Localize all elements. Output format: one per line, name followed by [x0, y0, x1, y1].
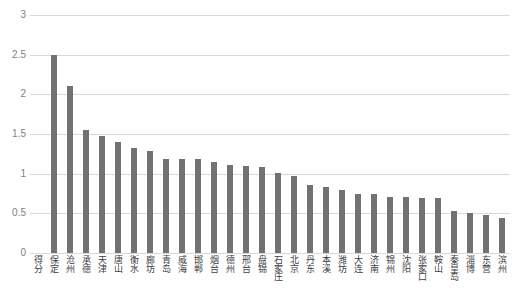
x-axis-tick-label: 张家口: [417, 255, 426, 281]
x-axis-tick: 丹东: [302, 253, 318, 301]
x-axis-tick: 保定: [46, 253, 62, 301]
bar-slot: [302, 15, 318, 253]
bar: [227, 165, 233, 253]
x-axis-tick: 鞍山: [430, 253, 446, 301]
bar: [387, 197, 393, 253]
plot-area: [30, 15, 510, 253]
x-axis-tick-label: 大连: [353, 255, 362, 272]
x-axis-tick: 廊坊: [142, 253, 158, 301]
x-axis-tick: 沈阳: [398, 253, 414, 301]
x-axis-tick-label: 威海: [177, 255, 186, 272]
bar: [467, 213, 473, 253]
bar-slot: [238, 15, 254, 253]
bar: [259, 167, 265, 253]
bar: [451, 211, 457, 253]
bar: [323, 187, 329, 253]
bar-slot: [94, 15, 110, 253]
x-axis-tick-label: 本溪: [321, 255, 330, 272]
x-axis-tick-label: 潍坊: [337, 255, 346, 272]
bar-series: [30, 15, 510, 253]
y-axis: 32.521.510.50: [0, 0, 30, 262]
x-axis-tick-label: 沈阳: [401, 255, 410, 272]
x-axis-tick-label: 衡水: [129, 255, 138, 272]
bar-slot: [46, 15, 62, 253]
y-axis-tick-label: 3: [20, 10, 26, 20]
bar-chart: 32.521.510.50 得分保定沧州承德天津唐山衡水廊坊青岛威海邯郸烟台德州…: [0, 0, 513, 301]
x-axis-tick-label: 丹东: [305, 255, 314, 272]
x-axis-tick: 济南: [366, 253, 382, 301]
x-axis-tick: 大连: [350, 253, 366, 301]
bar: [291, 176, 297, 253]
x-axis-tick: 衡水: [126, 253, 142, 301]
y-axis-tick-label: 0: [20, 248, 26, 258]
x-axis-tick: 承德: [78, 253, 94, 301]
x-axis-tick: 唐山: [110, 253, 126, 301]
y-axis-tick-label: 2.5: [12, 50, 26, 60]
bar: [499, 218, 505, 253]
bar: [419, 198, 425, 253]
x-axis-tick-label: 北京: [289, 255, 298, 272]
bar-slot: [190, 15, 206, 253]
x-axis-tick-label: 承德: [81, 255, 90, 272]
x-axis-tick-label: 廊坊: [145, 255, 154, 272]
bar-slot: [366, 15, 382, 253]
x-axis-tick-label: 青岛: [161, 255, 170, 272]
bar: [339, 190, 345, 253]
bar: [147, 151, 153, 253]
bar-slot: [446, 15, 462, 253]
bar-slot: [142, 15, 158, 253]
y-axis-tick-label: 1.5: [12, 129, 26, 139]
x-axis-tick-label: 德州: [225, 255, 234, 272]
x-axis-tick-label: 邯郸: [193, 255, 202, 272]
x-axis-tick: 威海: [174, 253, 190, 301]
bar-slot: [478, 15, 494, 253]
x-axis-tick-label: 东营: [481, 255, 490, 272]
bar-slot: [62, 15, 78, 253]
x-axis-tick: 北京: [286, 253, 302, 301]
x-axis-tick: 沧州: [62, 253, 78, 301]
bar-slot: [430, 15, 446, 253]
x-axis-tick: 德州: [222, 253, 238, 301]
bar: [83, 130, 89, 253]
bar-slot: [494, 15, 510, 253]
bar: [243, 166, 249, 253]
bar: [211, 162, 217, 253]
x-axis: 得分保定沧州承德天津唐山衡水廊坊青岛威海邯郸烟台德州邢台盘锦石家庄北京丹东本溪潍…: [30, 253, 510, 301]
x-axis-tick: 滨州: [494, 253, 510, 301]
x-axis-tick: 张家口: [414, 253, 430, 301]
bar: [435, 198, 441, 253]
x-axis-tick-label: 盘锦: [257, 255, 266, 272]
bar-slot: [126, 15, 142, 253]
bar-slot: [286, 15, 302, 253]
x-axis-tick: 本溪: [318, 253, 334, 301]
x-axis-tick: 秦皇岛: [446, 253, 462, 301]
bar-slot: [174, 15, 190, 253]
bar: [307, 185, 313, 253]
x-axis-tick: 邯郸: [190, 253, 206, 301]
x-axis-tick: 石家庄: [270, 253, 286, 301]
x-axis-tick-label: 济南: [369, 255, 378, 272]
bar: [355, 194, 361, 254]
x-axis-tick: 盘锦: [254, 253, 270, 301]
bar: [195, 159, 201, 253]
bar: [179, 159, 185, 253]
x-axis-tick-label: 天津: [97, 255, 106, 272]
x-axis-tick: 锦州: [382, 253, 398, 301]
y-axis-tick-label: 0.5: [12, 208, 26, 218]
bar-slot: [270, 15, 286, 253]
bar: [371, 194, 377, 253]
x-axis-tick-label: 锦州: [385, 255, 394, 272]
bar-slot: [110, 15, 126, 253]
x-axis-tick: 东营: [478, 253, 494, 301]
bar: [131, 148, 137, 254]
bar: [163, 159, 169, 253]
bar: [67, 86, 73, 253]
x-axis-tick-label: 得分: [33, 255, 42, 272]
x-axis-tick-label: 烟台: [209, 255, 218, 272]
bar: [99, 136, 105, 253]
x-axis-tick-label: 邢台: [241, 255, 250, 272]
bar-slot: [158, 15, 174, 253]
bar: [483, 215, 489, 253]
x-axis-tick: 天津: [94, 253, 110, 301]
bar-slot: [222, 15, 238, 253]
